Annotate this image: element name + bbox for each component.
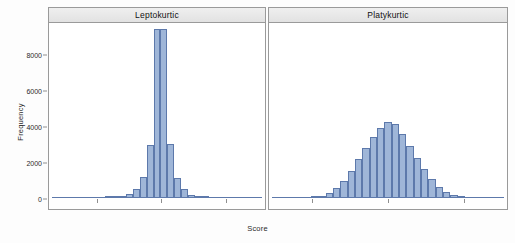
histogram-bar (406, 146, 413, 198)
histogram-bar (414, 158, 421, 198)
histogram-bar (421, 169, 428, 198)
panel-title-platykurtic: Platykurtic (367, 10, 408, 20)
plot-area-leptokurtic (49, 24, 265, 209)
bar-group-leptokurtic (49, 24, 265, 198)
y-axis-tick-mark (43, 199, 47, 200)
histogram-bar (355, 159, 362, 198)
y-axis-tick-label: 6000 (26, 88, 42, 95)
panel-leptokurtic: Leptokurtic (48, 7, 266, 210)
y-axis-tick-mark (43, 91, 47, 92)
y-axis-tick-label: 2000 (26, 160, 42, 167)
histogram-bar (154, 29, 161, 198)
y-axis-tick-label: 0 (38, 196, 42, 203)
y-axis-tick-mark (43, 163, 47, 164)
x-axis-tick-mark (388, 199, 389, 203)
histogram-bar (384, 122, 391, 198)
histogram-bar (370, 137, 377, 198)
histogram-bar (174, 178, 181, 198)
histogram-bar (362, 148, 369, 198)
plot-area-platykurtic (269, 24, 507, 209)
histogram-bar (348, 171, 355, 198)
y-axis-ticks: 02000400060008000 (14, 0, 48, 243)
histogram-bar (399, 134, 406, 198)
histogram-bar (167, 144, 174, 198)
y-axis-tick-mark (43, 55, 47, 56)
y-axis-tick-label: 8000 (26, 52, 42, 59)
y-axis-tick-mark (43, 127, 47, 128)
histogram-bar (428, 179, 435, 198)
panel-title-strip-leptokurtic: Leptokurtic (49, 8, 265, 23)
x-axis-tick-mark (226, 199, 227, 203)
baseline-leptokurtic (52, 197, 262, 198)
histogram-bar (147, 145, 154, 198)
panel-platykurtic: Platykurtic (268, 7, 508, 210)
x-axis-tick-mark (161, 199, 162, 203)
histogram-bar (160, 29, 167, 198)
x-axis-label: Score (0, 224, 515, 233)
baseline-platykurtic (272, 197, 504, 198)
histogram-bar (140, 177, 147, 198)
panel-title-leptokurtic: Leptokurtic (135, 10, 179, 20)
histogram-bar (377, 128, 384, 198)
histogram-figure: Frequency 02000400060008000 Leptokurtic … (0, 0, 515, 243)
panel-title-strip-platykurtic: Platykurtic (269, 8, 507, 23)
histogram-bar (392, 124, 399, 198)
bar-group-platykurtic (269, 24, 507, 198)
histogram-bar (340, 181, 347, 198)
x-axis-tick-mark (464, 199, 465, 203)
x-axis-tick-mark (312, 199, 313, 203)
y-axis-tick-label: 4000 (26, 124, 42, 131)
x-axis-tick-mark (97, 199, 98, 203)
